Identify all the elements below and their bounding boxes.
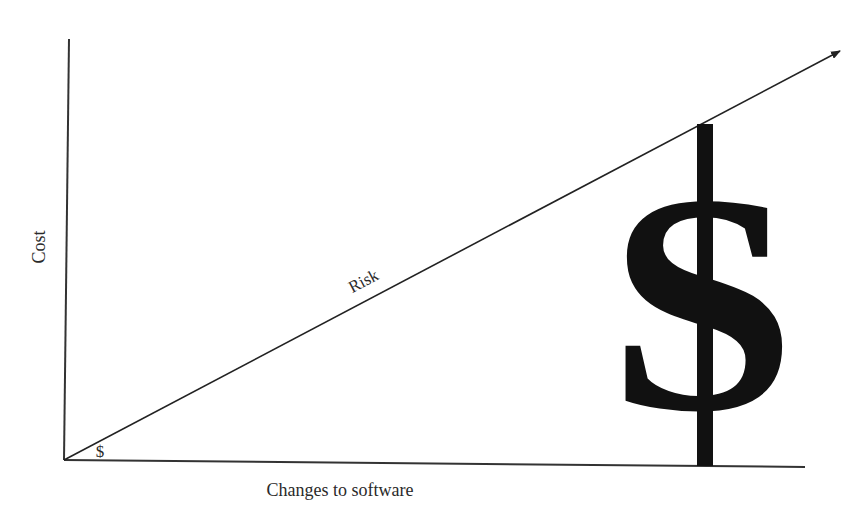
y-axis-label: Cost [29, 230, 49, 263]
small-dollar-icon: $ [96, 442, 105, 461]
x-axis-label: Changes to software [267, 480, 414, 500]
risk-label: Risk [345, 265, 382, 297]
large-dollar-icon: S [607, 124, 796, 476]
y-axis [64, 39, 69, 460]
risk-cost-diagram: S $ Risk Cost Changes to software [0, 0, 866, 531]
